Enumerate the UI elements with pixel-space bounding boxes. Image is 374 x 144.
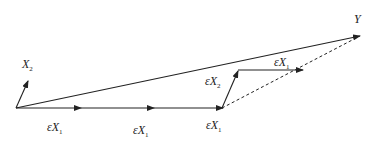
label-step5: εX1 xyxy=(274,55,290,71)
label-x2: X2 xyxy=(21,57,33,73)
label-step3: εX1 xyxy=(206,118,222,134)
label-step2: εX1 xyxy=(133,123,149,139)
label-y: Y xyxy=(354,12,362,26)
x2-vector xyxy=(16,81,28,108)
label-step1: εX1 xyxy=(47,120,63,136)
vector-diagram: X2 Y εX1 εX1 εX1 εX2 εX1 xyxy=(0,0,374,144)
label-step4: εX2 xyxy=(205,74,221,90)
y-vector xyxy=(16,36,360,108)
step4-vector xyxy=(222,71,238,108)
residual-dashed-line xyxy=(222,37,358,108)
